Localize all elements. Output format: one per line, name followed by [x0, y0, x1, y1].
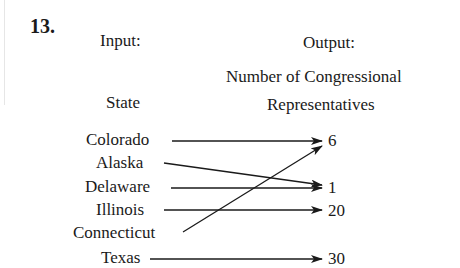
mapping-arrows: [0, 0, 460, 268]
arrow-alaska-1: [164, 163, 322, 185]
arrow-connecticut-6: [183, 146, 322, 232]
